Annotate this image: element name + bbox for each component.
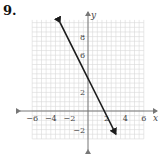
- x-tick-label: 4: [123, 114, 128, 123]
- y-axis-label: y: [90, 10, 97, 20]
- x-tick-label: 6: [141, 114, 146, 123]
- y-tick-label: 8: [80, 33, 85, 42]
- x-tick-label: −2: [64, 114, 76, 123]
- x-tick-label: −6: [26, 114, 38, 123]
- y-tick-label: 2: [80, 88, 85, 97]
- y-tick-label: 6: [80, 51, 85, 60]
- x-tick-label: −4: [45, 114, 57, 123]
- x-axis-label: x: [153, 113, 158, 123]
- y-tick-label: −2: [73, 126, 85, 135]
- coordinate-plane: x y −6−4−2246 862−2: [0, 0, 165, 155]
